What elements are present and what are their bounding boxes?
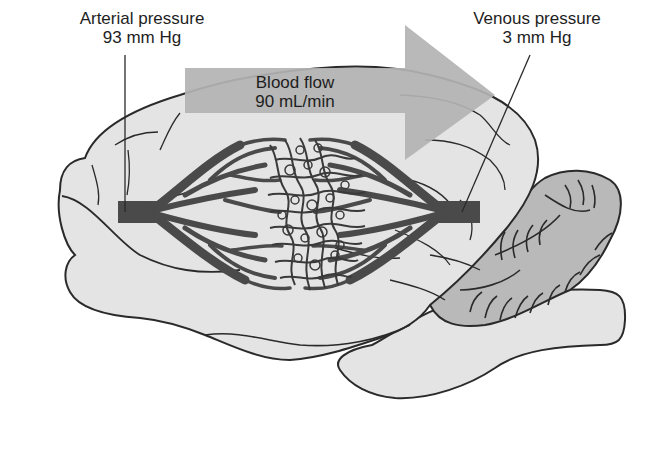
venous-pressure-value: 3 mm Hg bbox=[452, 28, 622, 47]
arterial-pressure-value: 93 mm Hg bbox=[52, 28, 232, 47]
arterial-pressure-label: Arterial pressure 93 mm Hg bbox=[52, 9, 232, 47]
venous-pressure-label: Venous pressure 3 mm Hg bbox=[452, 9, 622, 47]
venous-pressure-title: Venous pressure bbox=[452, 9, 622, 28]
blood-flow-title: Blood flow bbox=[210, 73, 380, 92]
blood-flow-label: Blood flow 90 mL/min bbox=[210, 73, 380, 111]
arterial-pressure-title: Arterial pressure bbox=[52, 9, 232, 28]
brain-illustration bbox=[0, 0, 670, 456]
blood-flow-value: 90 mL/min bbox=[210, 92, 380, 111]
diagram: Arterial pressure 93 mm Hg Venous pressu… bbox=[0, 0, 670, 456]
